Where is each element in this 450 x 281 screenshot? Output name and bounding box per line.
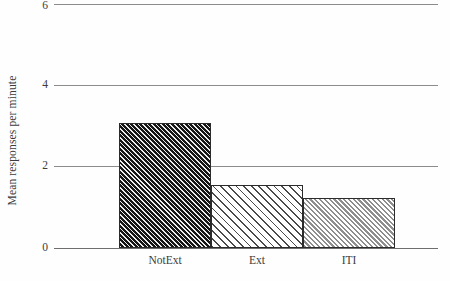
y-axis-title: Mean responses per minute [0,0,24,281]
y-tick-label-6: 6 [24,0,48,12]
y-tick-label-4: 4 [24,79,48,91]
y-tick-label-0: 0 [24,242,48,254]
axis-baseline-0 [54,248,438,249]
y-tick-label-2: 2 [24,160,48,172]
x-tick-label-iti: ITI [303,255,395,267]
bar-ext[interactable] [211,185,303,248]
bar-iti[interactable] [303,198,395,248]
x-tick-label-notext: NotExt [119,255,211,267]
bar-notext[interactable] [119,123,211,248]
x-tick-label-ext: Ext [211,255,303,267]
plot-area [119,0,395,248]
bar-chart-figure: Mean responses per minute 6 4 2 0 NotExt… [0,0,450,281]
